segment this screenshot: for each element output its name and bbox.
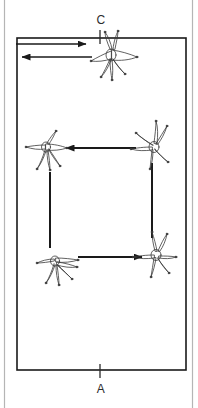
marker-label-c: C <box>91 14 111 26</box>
marker-label-a: A <box>91 383 111 395</box>
arena-diagram-svg <box>0 0 198 408</box>
arena-rectangle <box>17 38 186 370</box>
diagram-canvas: C A <box>0 0 198 408</box>
